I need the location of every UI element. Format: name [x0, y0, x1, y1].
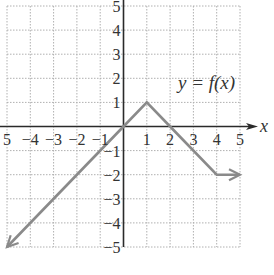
x-tick-label: −4: [22, 131, 39, 148]
y-tick-label: 3: [113, 46, 121, 63]
y-tick-label: 4: [113, 22, 121, 39]
x-tick-label: −2: [68, 131, 85, 148]
y-tick-label: −4: [103, 215, 120, 232]
y-tick-label: 2: [113, 70, 121, 87]
y-tick-label: 5: [113, 0, 121, 15]
x-axis-label: x: [259, 116, 268, 136]
function-graph: 5−4−3−2−112345−5−4−3−2−112345 x y = f(x): [0, 0, 274, 275]
y-tick-label: −5: [103, 239, 120, 256]
axes: [0, 0, 258, 247]
y-tick-label: 1: [113, 94, 121, 111]
function-annotation: y = f(x): [176, 72, 235, 94]
x-tick-label: 1: [143, 131, 151, 148]
x-tick-label: 3: [189, 131, 197, 148]
x-tick-label: 2: [166, 131, 174, 148]
x-tick-label: 4: [213, 131, 221, 148]
y-tick-label: −2: [103, 167, 120, 184]
x-tick-label: 5: [3, 131, 11, 148]
x-tick-label: −3: [45, 131, 62, 148]
y-tick-label: −1: [103, 143, 120, 160]
y-tick-label: −3: [103, 191, 120, 208]
x-tick-label: 5: [236, 131, 244, 148]
